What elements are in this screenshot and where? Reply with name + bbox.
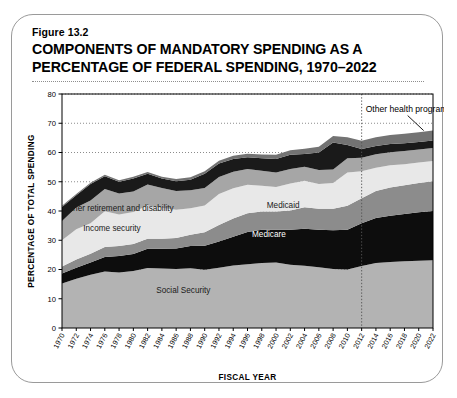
svg-text:2000: 2000 (265, 332, 280, 350)
y-axis-title: PERCENTAGE OF TOTAL SPENDING (27, 134, 36, 287)
svg-text:1990: 1990 (194, 332, 209, 350)
svg-text:30: 30 (48, 236, 56, 245)
svg-text:1982: 1982 (137, 332, 152, 350)
svg-text:20: 20 (48, 265, 56, 274)
svg-text:1980: 1980 (123, 332, 138, 350)
x-axis-title: FISCAL YEAR (218, 373, 276, 382)
svg-text:1984: 1984 (151, 332, 166, 350)
svg-text:2018: 2018 (394, 332, 409, 350)
svg-text:1992: 1992 (208, 332, 223, 350)
svg-text:2008: 2008 (322, 332, 337, 350)
svg-text:70: 70 (48, 119, 56, 128)
svg-text:Income security: Income security (83, 224, 141, 233)
svg-text:2016: 2016 (380, 332, 395, 350)
figure-card: Figure 13.2 COMPONENTS OF MANDATORY SPEN… (11, 14, 443, 383)
svg-text:Medicare: Medicare (252, 230, 286, 239)
chart-area: 01020304050607080 1970197219741976197819… (12, 15, 444, 384)
svg-text:1974: 1974 (80, 332, 95, 350)
svg-text:Medicaid: Medicaid (267, 201, 300, 210)
svg-text:1978: 1978 (108, 332, 123, 350)
svg-text:1988: 1988 (180, 332, 195, 350)
svg-text:2020: 2020 (408, 332, 423, 350)
svg-text:Other health programs: Other health programs (366, 104, 444, 114)
svg-text:2002: 2002 (280, 332, 295, 350)
y-axis-ticks: 01020304050607080 (48, 90, 62, 333)
svg-text:1976: 1976 (94, 332, 109, 350)
svg-text:1986: 1986 (165, 332, 180, 350)
svg-text:2006: 2006 (308, 332, 323, 350)
svg-text:1972: 1972 (66, 332, 81, 350)
svg-text:1996: 1996 (237, 332, 252, 350)
svg-text:2022: 2022 (422, 332, 437, 350)
x-axis-ticks: 1970197219741976197819801982198419861988… (51, 328, 437, 350)
svg-text:0: 0 (52, 324, 56, 333)
svg-text:50: 50 (48, 178, 56, 187)
svg-text:2012: 2012 (351, 332, 366, 350)
svg-text:80: 80 (48, 90, 56, 99)
svg-text:1970: 1970 (51, 332, 66, 350)
svg-text:1994: 1994 (223, 332, 238, 350)
svg-text:Other retirement and disabilit: Other retirement and disability (64, 204, 174, 213)
svg-text:2014: 2014 (365, 332, 380, 350)
svg-text:2004: 2004 (294, 332, 309, 350)
svg-text:60: 60 (48, 148, 56, 157)
stacked-area-chart: 01020304050607080 1970197219741976197819… (12, 15, 444, 384)
svg-text:2010: 2010 (337, 332, 352, 350)
svg-text:1998: 1998 (251, 332, 266, 350)
svg-text:40: 40 (48, 207, 56, 216)
svg-text:Social Security: Social Security (156, 286, 211, 295)
svg-text:10: 10 (48, 295, 56, 304)
